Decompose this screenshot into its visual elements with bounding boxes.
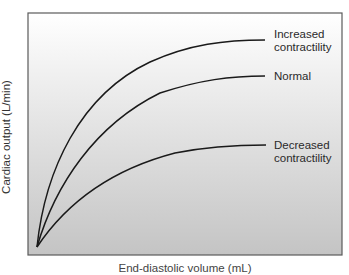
label-normal: Normal — [274, 70, 311, 83]
label-line: Increased — [274, 28, 332, 41]
label-line: contractility — [274, 152, 332, 165]
label-decreased-contractility: Decreased contractility — [274, 139, 332, 165]
label-increased-contractility: Increased contractility — [274, 28, 332, 54]
label-line: Decreased — [274, 139, 332, 152]
x-axis-label: End-diastolic volume (mL) — [28, 261, 342, 275]
y-axis-label: Cardiac output (L/min) — [0, 57, 13, 217]
label-line: Normal — [274, 70, 311, 83]
label-line: contractility — [274, 41, 332, 54]
